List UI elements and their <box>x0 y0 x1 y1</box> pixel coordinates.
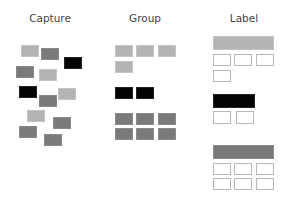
group-card-medium <box>158 113 176 125</box>
label-box <box>256 54 274 66</box>
capture-card-black <box>64 57 82 69</box>
label-box <box>256 178 274 190</box>
capture-card-medium <box>16 66 34 78</box>
capture-card-medium <box>39 95 57 107</box>
capture-card-light <box>39 69 57 81</box>
group-card-light <box>136 45 154 57</box>
label-box <box>213 111 231 124</box>
label-box <box>234 54 252 66</box>
group-card-light <box>115 45 133 57</box>
capture-card-medium <box>53 117 71 129</box>
label-bar-medium <box>213 145 274 159</box>
group-card-black <box>115 87 133 99</box>
label-box <box>213 54 231 66</box>
capture-card-medium <box>19 126 37 138</box>
group-card-light <box>158 45 176 57</box>
label-box <box>236 111 254 124</box>
group-card-black <box>136 87 154 99</box>
label-box <box>213 70 231 82</box>
capture-card-black <box>19 86 37 98</box>
label-box <box>213 163 231 175</box>
label-bar-black <box>213 94 255 108</box>
group-card-medium <box>115 128 133 140</box>
label-box <box>234 178 252 190</box>
label-box <box>213 178 231 190</box>
column-title-label: Label <box>230 12 258 24</box>
capture-card-light <box>27 110 45 122</box>
label-bar-light <box>213 36 274 50</box>
group-card-light <box>115 61 133 73</box>
label-box <box>256 163 274 175</box>
column-title-capture: Capture <box>29 12 71 24</box>
label-box <box>234 163 252 175</box>
group-card-medium <box>158 128 176 140</box>
group-card-medium <box>136 128 154 140</box>
capture-card-light <box>58 88 76 100</box>
group-card-medium <box>115 113 133 125</box>
capture-card-medium <box>44 134 62 146</box>
capture-card-medium <box>41 48 59 60</box>
group-card-medium <box>136 113 154 125</box>
capture-card-light <box>21 45 39 57</box>
column-title-group: Group <box>129 12 161 24</box>
